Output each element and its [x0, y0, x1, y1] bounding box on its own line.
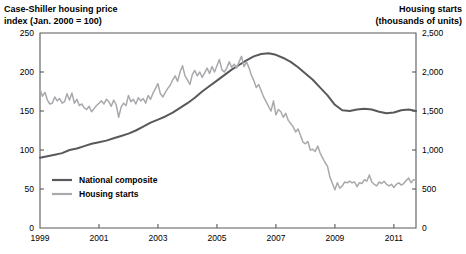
- left-tick-label: 150: [20, 106, 34, 116]
- right-tick-label: 1,500: [422, 106, 444, 116]
- chart-series: [40, 53, 416, 190]
- chart-axes: 05010015020025005001,0001,5002,0002,5001…: [20, 28, 444, 243]
- x-tick-label: 2003: [148, 233, 167, 243]
- x-tick-label: 1999: [31, 233, 50, 243]
- left-axis-title-line1: Case-Shiller housing price: [4, 4, 118, 14]
- x-tick-label: 2011: [385, 233, 404, 243]
- legend-label-1: Housing starts: [79, 189, 139, 199]
- left-tick-label: 100: [20, 145, 34, 155]
- right-tick-label: 2,500: [422, 28, 444, 38]
- left-tick-label: 200: [20, 67, 34, 77]
- left-tick-label: 250: [20, 28, 34, 38]
- x-tick-label: 2005: [207, 233, 226, 243]
- right-axis-title-line2: (thousands of units): [376, 16, 463, 26]
- left-tick-label: 50: [25, 184, 35, 194]
- right-tick-label: 2,000: [422, 67, 444, 77]
- right-axis-title-line1: Housing starts: [399, 4, 462, 14]
- right-tick-label: 1,000: [422, 145, 444, 155]
- x-tick-label: 2001: [90, 233, 109, 243]
- left-tick-label: 0: [29, 223, 34, 233]
- housing-chart-figure: Case-Shiller housing price index (Jan. 2…: [0, 0, 466, 254]
- right-tick-label: 0: [422, 223, 427, 233]
- x-tick-label: 2007: [266, 233, 285, 243]
- chart-legend: National compositeHousing starts: [52, 175, 158, 199]
- x-tick-label: 2009: [325, 233, 344, 243]
- series-line-housing-starts: [40, 56, 416, 189]
- left-axis-title-line2: index (Jan. 2000 = 100): [4, 16, 102, 26]
- right-tick-label: 500: [422, 184, 436, 194]
- legend-label-0: National composite: [79, 175, 158, 185]
